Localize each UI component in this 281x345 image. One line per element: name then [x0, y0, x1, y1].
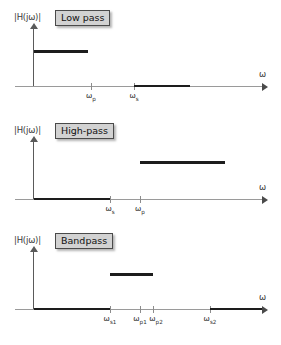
tick-label-omega-s2: ωs2 — [204, 314, 217, 325]
segment-passband — [34, 50, 88, 53]
tick-omega-p — [91, 83, 92, 90]
vertical-axis — [33, 28, 34, 86]
tick-label-omega-s1: ωs1 — [104, 314, 117, 325]
segment-stopband — [34, 198, 110, 201]
tick-omega-s — [110, 196, 111, 203]
tick-label-sub: p1 — [140, 319, 147, 325]
segment-stopband-low — [34, 308, 110, 311]
y-axis-label: |H(jω)| — [14, 125, 41, 135]
tick-label-omega-p1: ωp1 — [133, 314, 146, 325]
filter-type-badge-low-pass: Low pass — [55, 10, 110, 26]
tick-omega-p1 — [140, 306, 141, 313]
segment-passband — [110, 273, 153, 276]
tick-label-omega-p: ωp — [135, 204, 145, 215]
tick-label-omega-s: ωs — [129, 91, 138, 102]
segment-passband — [140, 161, 225, 164]
tick-omega-p — [140, 196, 141, 203]
vertical-axis — [33, 251, 34, 309]
y-axis-label: |H(jω)| — [14, 12, 41, 22]
tick-omega-p2 — [153, 306, 154, 313]
tick-label-omega-s: ωs — [105, 204, 114, 215]
filter-type-badge-bandpass: Bandpass — [55, 233, 113, 249]
tick-label-sub: s2 — [210, 319, 216, 325]
tick-label-omega-p2: ωp2 — [149, 314, 162, 325]
x-axis-label: ω — [259, 182, 266, 192]
tick-label-omega-p: ωp — [86, 91, 96, 102]
segment-stopband — [134, 85, 190, 88]
panel-bandpass: |H(jω)| Bandpass ω ωs1 ωp1 ωp2 ωs2 — [0, 226, 281, 339]
vertical-axis — [33, 141, 34, 199]
tick-label-sub: s — [112, 209, 115, 215]
tick-label-sub: s1 — [110, 319, 116, 325]
segment-stopband-high — [210, 308, 262, 311]
x-axis-label: ω — [259, 69, 266, 79]
panel-low-pass: |H(jω)| Low pass ω ωp ωs — [0, 0, 281, 113]
y-axis-label: |H(jω)| — [14, 235, 41, 245]
tick-label-sub: p — [141, 209, 145, 215]
filter-type-badge-high-pass: High-pass — [55, 123, 114, 139]
panel-high-pass: |H(jω)| High-pass ω ωs ωp — [0, 113, 281, 226]
tick-label-sub: s — [136, 96, 139, 102]
x-axis-label: ω — [259, 292, 266, 302]
tick-label-sub: p2 — [156, 319, 163, 325]
tick-label-sub: p — [92, 96, 96, 102]
tick-omega-s1 — [110, 306, 111, 313]
